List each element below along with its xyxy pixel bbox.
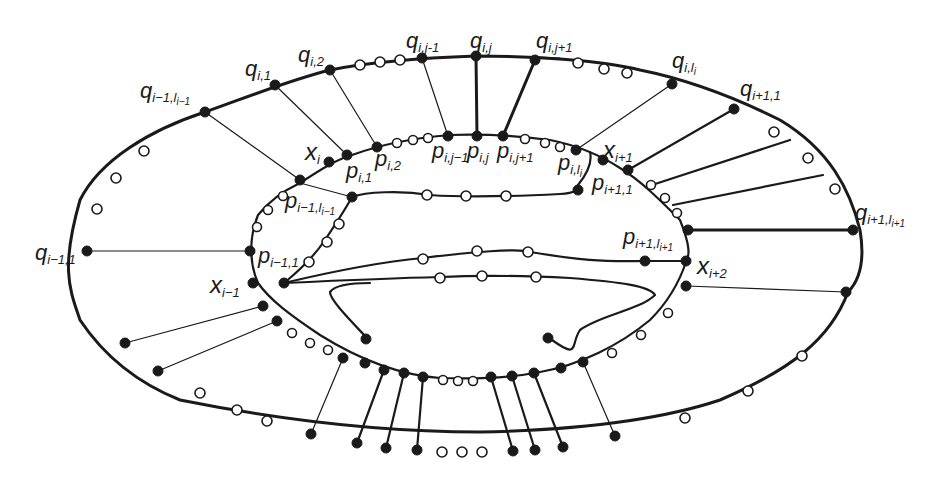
label-p-i2: pi,2 [375,148,401,172]
label-q-ip1-lip1: qi+1,li+1 [855,202,905,229]
label-q-im1-lim1: qi−1,li−1 [140,80,190,107]
outer-boundary [68,56,861,432]
label-q-i2: qi,2 [298,44,324,68]
label-x-i: xi [305,140,320,166]
label-x-ip1: xi+1 [603,138,633,164]
label-q-ili: qi,li [672,50,696,77]
label-p-im1-1: pi−1,1 [258,245,299,269]
label-p-ij: pi,j [467,140,489,164]
label-q-ijm1: qi,j-1 [406,30,439,54]
label-q-ij: qi,j [470,30,492,54]
label-p-i1: pi,1 [346,160,372,184]
label-p-ijm1: pi,j−1 [432,140,468,164]
diagram-canvas: qi−1,li−1 qi,1 qi,2 qi,j-1 qi,j qi,j+1 q… [0,0,943,483]
label-q-i1: qi,1 [245,58,271,82]
band-left-hook [330,283,370,337]
annulus-diagram [0,0,943,483]
label-q-im1-1: qi−1,1 [35,242,76,266]
label-q-ip1-1: qi+1,1 [740,78,781,102]
label-x-im1: xi−1 [210,273,240,299]
label-p-ijp1: pi,j+1 [497,140,533,164]
label-p-ip1-lip1: pi+1,li+1 [623,226,673,253]
label-p-ili: pi,li [558,152,582,179]
label-p-ip1-1: pi+1,1 [592,172,633,196]
label-q-ijp1: qi,j+1 [536,30,572,54]
label-p-im1-lim1: pi−1,li−1 [285,190,335,217]
label-x-ip2: xi+2 [697,254,727,280]
